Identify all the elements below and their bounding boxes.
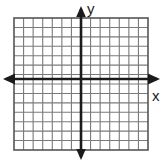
- y-axis-label: y: [87, 1, 95, 16]
- arrow-up-icon: [76, 6, 86, 17]
- coordinate-plane-figure: y x: [0, 0, 166, 163]
- x-axis-label: x: [152, 88, 160, 103]
- arrow-left-icon: [3, 74, 15, 85]
- coordinate-plane-svg: [0, 0, 166, 163]
- arrow-down-icon: [76, 149, 86, 160]
- arrow-right-icon: [148, 74, 160, 85]
